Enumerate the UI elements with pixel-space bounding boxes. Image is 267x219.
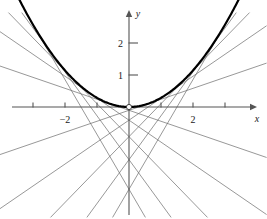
x-tick-label--2: −2 (60, 114, 71, 125)
y-axis-label: y (135, 8, 141, 19)
y-tick-label-2: 2 (118, 38, 123, 49)
tangent-line (0, 31, 267, 214)
x-axis-label: x (254, 113, 260, 124)
plot-canvas: −2212xy (0, 0, 267, 219)
x-tick-label-2: 2 (191, 114, 196, 125)
tangent-line (8, 13, 207, 218)
tangent-line (51, 13, 250, 218)
x-axis-arrow-icon (250, 104, 257, 110)
y-axis-arrow-icon (126, 10, 132, 17)
parabola-tangent-figure: −2212xy (0, 0, 267, 219)
origin-marker-group (126, 104, 131, 109)
origin-point-marker (126, 104, 131, 109)
y-tick-label-1: 1 (118, 70, 123, 81)
tangent-line (0, 66, 267, 158)
